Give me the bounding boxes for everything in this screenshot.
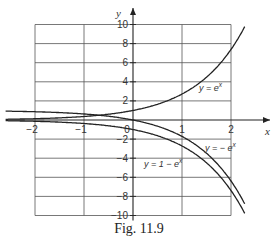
y-tick-label: −8 <box>117 191 129 202</box>
y-tick-label: 2 <box>122 95 128 106</box>
curve-label: y = ex <box>198 81 223 93</box>
x-tick-label: 1 <box>179 124 185 135</box>
x-axis-label: x <box>264 125 270 137</box>
y-tick-label: −10 <box>111 210 128 221</box>
exponential-graph: xy−10−8−6−4−2246810−2−1012 y = exy = − e… <box>0 0 278 222</box>
curve-labels: y = exy = − exy = 1 − ex <box>143 81 237 169</box>
curve-label: y = 1 − ex <box>143 157 183 169</box>
y-tick-label: 6 <box>122 57 128 68</box>
tick-labels: xy−10−8−6−4−2246810−2−1012 <box>26 7 270 221</box>
figure-caption: Fig. 11.9 <box>0 221 278 237</box>
x-tick-label: −1 <box>75 124 87 135</box>
y-tick-label: 4 <box>122 76 128 87</box>
y-tick-label: 8 <box>122 38 128 49</box>
curve-label: y = − ex <box>204 141 237 153</box>
y-tick-label: −6 <box>117 172 129 183</box>
x-tick-label: −2 <box>26 124 38 135</box>
y-tick-label: −2 <box>117 134 129 145</box>
y-axis-label: y <box>115 7 121 19</box>
y-tick-label: 10 <box>117 19 129 30</box>
x-tick-label: 2 <box>228 124 234 135</box>
x-axis-arrow-icon <box>263 117 270 123</box>
y-axis-arrow-icon <box>130 8 136 15</box>
y-tick-label: −4 <box>117 153 129 164</box>
